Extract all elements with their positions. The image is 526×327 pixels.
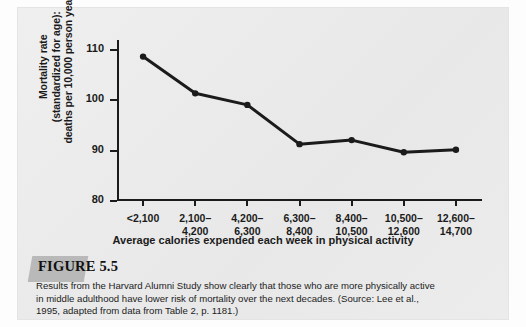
y-axis-tick [110,49,117,51]
series-polyline [143,57,456,153]
data-point-marker [348,137,354,143]
figure-number-label: FIGURE 5.5 [38,258,118,275]
x-axis-tick [246,199,248,206]
y-axis-tick-label: 90 [74,143,104,155]
y-axis-tick [110,150,117,152]
x-axis-tick [351,199,353,206]
y-axis-title-line-3: deaths per 10,000 person years [62,0,75,157]
x-axis-tick-label-line: 12,600– [424,212,488,225]
x-axis-title: Average calories expended each week in p… [18,234,508,246]
plot-region: 8090100110<2,1002,100–4,2004,200–6,3006,… [117,40,482,201]
data-point-marker [453,146,459,152]
x-axis-tick [194,199,196,206]
x-axis-tick [299,199,301,206]
data-point-marker [140,53,146,59]
y-axis-tick [110,200,117,202]
y-axis-tick [110,99,117,101]
caption-line-2: in middle adulthood have lower risk of m… [36,293,494,306]
y-axis-title: Mortality rate (standardized for age): d… [37,0,75,157]
chart-area: Mortality rate (standardized for age): d… [18,8,508,250]
caption-line-3: 1995, adapted from data from Table 2, p.… [36,305,494,318]
x-axis-tick [403,199,405,206]
data-point-marker [296,141,302,147]
data-point-marker [401,149,407,155]
data-point-marker [192,90,198,96]
y-axis-tick-label: 100 [74,92,104,104]
y-axis-tick-label: 110 [74,42,104,54]
caption-line-1: Results from the Harvard Alumni Study sh… [36,280,494,293]
data-point-marker [244,102,250,108]
x-axis-tick [455,199,457,206]
figure-panel: Mortality rate (standardized for age): d… [18,8,508,319]
x-axis-tick [142,199,144,206]
mortality-line-series [117,40,482,201]
y-axis-tick-label: 80 [74,193,104,205]
figure-root: Mortality rate (standardized for age): d… [0,0,526,327]
y-axis-title-line-2: (standardized for age): [50,0,63,157]
figure-caption: Results from the Harvard Alumni Study sh… [36,280,494,318]
y-axis-title-line-1: Mortality rate [37,0,50,157]
